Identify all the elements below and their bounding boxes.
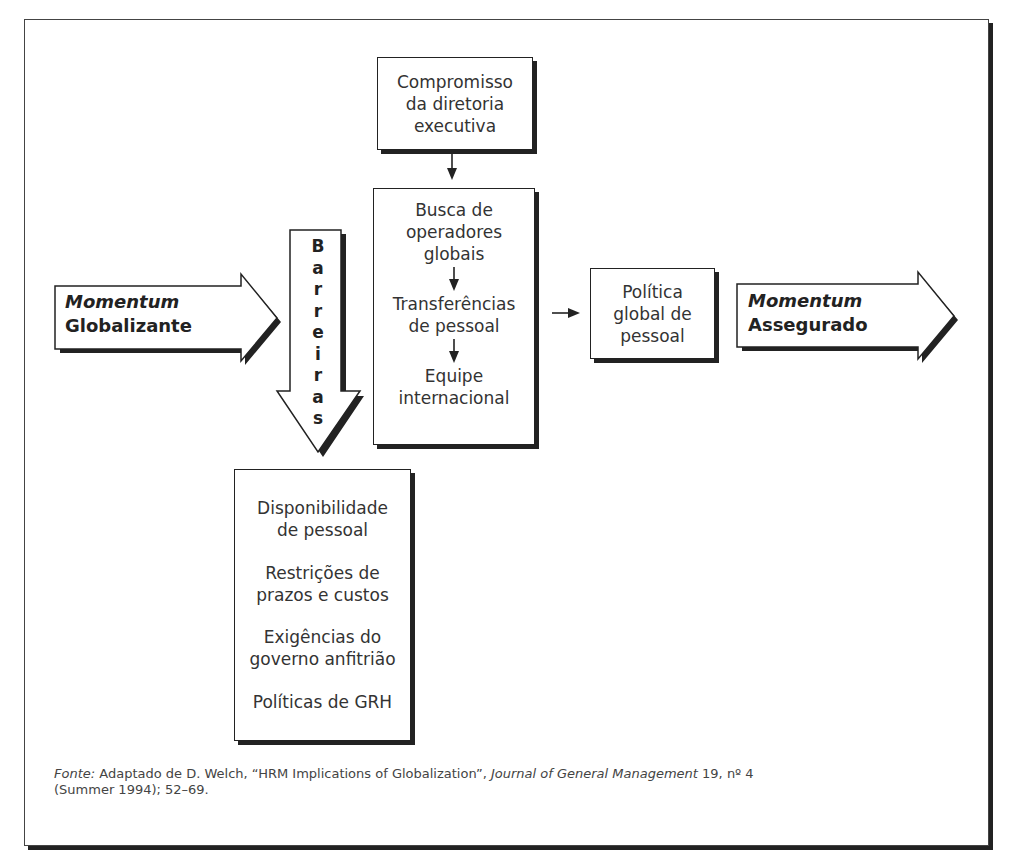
box-line: executiva (414, 115, 496, 137)
step-line: globais (406, 243, 502, 265)
step-line: Busca de (406, 199, 502, 221)
barrier-item: Disponibilidade de pessoal (257, 497, 388, 541)
momentum-globalizing-label: Momentum Globalizante (65, 290, 245, 338)
momentum-assured-label: Momentum Assegurado (748, 289, 928, 337)
box-line: pessoal (620, 325, 685, 347)
down-arrow-icon (445, 265, 463, 293)
barrier-item: Políticas de GRH (253, 691, 392, 713)
barrier-item: Restrições de prazos e custos (256, 562, 389, 606)
barriers-label: B a r r e i r a s (298, 236, 338, 430)
global-staffing-policy-box: Política global de pessoal (590, 268, 715, 359)
barrier-item: Exigências do governo anfitrião (249, 626, 395, 670)
right-arrow-icon (550, 304, 582, 322)
step-international-team: Equipe internacional (399, 365, 510, 409)
item-line: prazos e custos (256, 584, 389, 606)
barrier-letter: r (314, 365, 322, 387)
barrier-letter: r (314, 301, 322, 323)
box-line: Política (622, 281, 683, 303)
step-line: Equipe (399, 365, 510, 387)
step-line: internacional (399, 387, 510, 409)
step-line: Transferências (393, 293, 516, 315)
barrier-letter: i (315, 344, 321, 366)
item-line: Exigências do (249, 626, 395, 648)
down-arrow-icon (445, 337, 463, 365)
down-arrow-icon (443, 152, 461, 182)
item-line: Disponibilidade (257, 497, 388, 519)
source-text-before: Adaptado de D. Welch, “HRM Implications … (95, 766, 491, 781)
step-global-operators: Busca de operadores globais (406, 199, 502, 265)
source-citation: Fonte: Adaptado de D. Welch, “HRM Implic… (54, 766, 934, 798)
source-line-2: (Summer 1994); 52–69. (54, 782, 934, 798)
box-line: Compromisso (397, 71, 513, 93)
global-operators-box: Busca de operadores globais Transferênci… (373, 188, 535, 445)
item-line: Políticas de GRH (253, 691, 392, 713)
step-line: de pessoal (393, 315, 516, 337)
source-journal: Journal of General Management (491, 766, 698, 781)
source-text-after: 19, nº 4 (698, 766, 754, 781)
box-line: global de (613, 303, 692, 325)
step-line: operadores (406, 221, 502, 243)
barrier-letter: s (313, 408, 323, 430)
barrier-letter: e (312, 322, 324, 344)
box-line: da diretoria (406, 93, 504, 115)
barrier-letter: a (312, 258, 323, 280)
item-line: governo anfitrião (249, 648, 395, 670)
label-italic: Momentum (748, 290, 862, 311)
label-bold: Globalizante (65, 314, 245, 338)
label-bold: Assegurado (748, 313, 928, 337)
item-line: de pessoal (257, 519, 388, 541)
item-line: Restrições de (256, 562, 389, 584)
barrier-letter: B (312, 236, 325, 258)
barrier-letter: r (314, 279, 322, 301)
step-staff-transfers: Transferências de pessoal (393, 293, 516, 337)
label-italic: Momentum (65, 291, 179, 312)
executive-commitment-box: Compromisso da diretoria executiva (377, 57, 533, 150)
barrier-letter: a (312, 387, 323, 409)
source-label: Fonte: (54, 766, 95, 781)
barriers-list-box: Disponibilidade de pessoal Restrições de… (234, 469, 411, 741)
